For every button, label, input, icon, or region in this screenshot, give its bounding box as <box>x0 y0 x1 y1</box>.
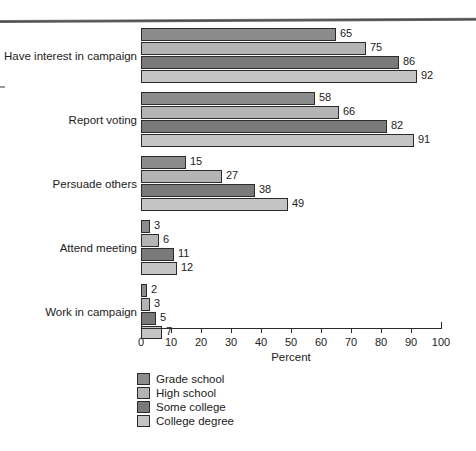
legend-item: Some college <box>137 401 317 414</box>
chart-legend: Grade schoolHigh schoolSome collegeColle… <box>137 373 317 429</box>
bar-group: 65758692 <box>141 28 441 83</box>
bar-row: 82 <box>141 120 441 133</box>
bar-value-label: 11 <box>178 247 189 260</box>
bar <box>141 42 366 55</box>
bar-row: 38 <box>141 184 441 197</box>
bar <box>141 284 147 297</box>
legend-swatch <box>137 387 150 399</box>
bar-value-label: 91 <box>418 133 430 146</box>
bar-value-label: 92 <box>421 69 433 82</box>
bar <box>141 106 339 119</box>
bar-row: 92 <box>141 70 441 83</box>
category-label-column: Have interest in campaignReport votingPe… <box>0 28 137 328</box>
bar-value-label: 58 <box>319 91 331 104</box>
x-axis-tick <box>381 328 382 333</box>
bar <box>141 92 315 105</box>
x-axis-tick <box>441 322 442 329</box>
bar-row: 11 <box>141 248 441 261</box>
x-axis-tick <box>411 328 412 333</box>
bar-group: 15273849 <box>141 156 441 211</box>
category-label: Attend meeting <box>4 242 137 254</box>
bar-row: 86 <box>141 56 441 69</box>
legend-item: High school <box>137 387 317 400</box>
x-axis-tick <box>171 328 172 333</box>
x-axis-tick-label: 70 <box>336 336 366 348</box>
bar <box>141 234 159 247</box>
bar-value-label: 12 <box>181 261 193 274</box>
bar-row: 6 <box>141 234 441 247</box>
bar <box>141 170 222 183</box>
x-axis-tick-label: 100 <box>426 336 456 348</box>
x-axis-tick-label: 40 <box>246 336 276 348</box>
bar <box>141 28 336 41</box>
legend-label: High school <box>156 386 216 400</box>
bar-row: 3 <box>141 298 441 311</box>
legend-item: Grade school <box>137 373 317 386</box>
x-axis-tick <box>291 328 292 333</box>
bar-value-label: 15 <box>190 155 202 168</box>
bar <box>141 198 288 211</box>
bar <box>141 298 150 311</box>
x-axis-tick-label: 0 <box>126 336 156 348</box>
legend-label: Grade school <box>156 372 224 386</box>
bar-row: 5 <box>141 312 441 325</box>
bar-row: 15 <box>141 156 441 169</box>
bar-row: 49 <box>141 198 441 211</box>
plot-area: 6575869258668291152738493611122357 <box>141 28 441 328</box>
bar-row: 75 <box>141 42 441 55</box>
bar-row: 27 <box>141 170 441 183</box>
x-axis-tick <box>261 328 262 333</box>
bar <box>141 220 150 233</box>
bar-row: 66 <box>141 106 441 119</box>
bar-value-label: 86 <box>403 55 415 68</box>
legend-label: Some college <box>156 400 226 414</box>
x-axis-tick-label: 60 <box>306 336 336 348</box>
bar-value-label: 66 <box>343 105 355 118</box>
legend-swatch <box>137 373 150 385</box>
x-axis-tick <box>231 328 232 333</box>
bar-value-label: 2 <box>151 283 157 296</box>
x-axis-tick <box>141 322 142 329</box>
bar-row: 58 <box>141 92 441 105</box>
bar-value-label: 82 <box>391 119 403 132</box>
bar-value-label: 38 <box>259 183 271 196</box>
category-label: Work in campaign <box>4 306 137 318</box>
bar-row: 91 <box>141 134 441 147</box>
x-axis-tick <box>201 328 202 333</box>
bar-row: 3 <box>141 220 441 233</box>
bar-row: 65 <box>141 28 441 41</box>
bar-value-label: 6 <box>163 233 169 246</box>
category-label: Report voting <box>4 114 137 126</box>
bar <box>141 70 417 83</box>
bar-group: 58668291 <box>141 92 441 147</box>
bar <box>141 312 156 325</box>
category-label: Have interest in campaign <box>4 50 137 62</box>
x-axis-tick <box>321 328 322 333</box>
bar <box>141 156 186 169</box>
bar-row: 2 <box>141 284 441 297</box>
bar-chart-figure: Have interest in campaignReport votingPe… <box>0 0 476 451</box>
top-divider-rule <box>0 18 476 23</box>
bar <box>141 120 387 133</box>
bar-value-label: 5 <box>160 311 166 324</box>
category-label: Persuade others <box>4 178 137 190</box>
bar-row: 12 <box>141 262 441 275</box>
x-axis-title: Percent <box>141 351 441 363</box>
bar-group: 361112 <box>141 220 441 275</box>
x-axis-tick-label: 80 <box>366 336 396 348</box>
x-axis-tick-label: 10 <box>156 336 186 348</box>
bar <box>141 134 414 147</box>
x-axis-tick-label: 90 <box>396 336 426 348</box>
x-axis-tick <box>351 328 352 333</box>
bar-value-label: 27 <box>226 169 238 182</box>
legend-swatch <box>137 401 150 413</box>
bar-value-label: 3 <box>154 297 160 310</box>
bar <box>141 184 255 197</box>
x-axis-tick-label: 30 <box>216 336 246 348</box>
bar <box>141 56 399 69</box>
bar-value-label: 75 <box>370 41 382 54</box>
bar-value-label: 49 <box>292 197 304 210</box>
legend-swatch <box>137 415 150 427</box>
bar-value-label: 65 <box>340 27 352 40</box>
x-axis-tick-label: 50 <box>276 336 306 348</box>
